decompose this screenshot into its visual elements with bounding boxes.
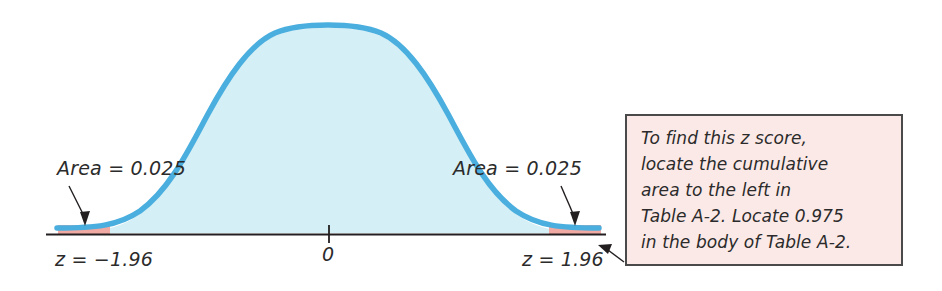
right-area-leader-line (561, 186, 574, 216)
axis-zero-label: 0 (322, 243, 334, 265)
callout-box: To find this z score, locate the cumulat… (625, 114, 903, 266)
callout-text: To find this z score, locate the cumulat… (641, 125, 897, 255)
right-area-label: Area = 0.025 (453, 157, 582, 179)
callout-pointer-line (608, 250, 624, 262)
left-area-label: Area = 0.025 (57, 157, 186, 179)
left-z-label: z = −1.96 (55, 248, 153, 270)
right-z-label: z = 1.96 (522, 248, 604, 270)
right-area-arrowhead (570, 211, 580, 226)
normal-distribution-figure: Area = 0.025 Area = 0.025 z = −1.96 z = … (0, 0, 942, 291)
left-area-arrowhead (80, 211, 90, 226)
left-area-leader-line (69, 186, 84, 216)
normal-curve-fill (57, 28, 599, 233)
